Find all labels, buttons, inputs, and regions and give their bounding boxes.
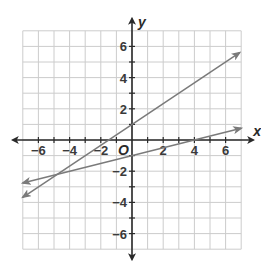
x-tick-label: −4 [62,143,78,158]
coordinate-plane: −6−4−2246−6−4−2246 x y O [0,0,261,269]
x-tick-label: 6 [222,143,229,158]
y-tick-label: 4 [120,71,128,86]
x-tick-label: 2 [160,143,167,158]
y-tick-label: 2 [120,102,127,117]
y-tick-label: −4 [112,195,128,210]
y-tick-label: −2 [112,164,127,179]
origin-label: O [118,142,129,158]
x-tick-label: 4 [191,143,199,158]
y-tick-label: 6 [120,39,127,54]
x-tick-label: −6 [31,143,46,158]
x-axis-label: x [252,123,261,139]
y-axis-label: y [137,14,147,30]
axes [13,19,253,259]
y-tick-label: −6 [112,227,127,242]
